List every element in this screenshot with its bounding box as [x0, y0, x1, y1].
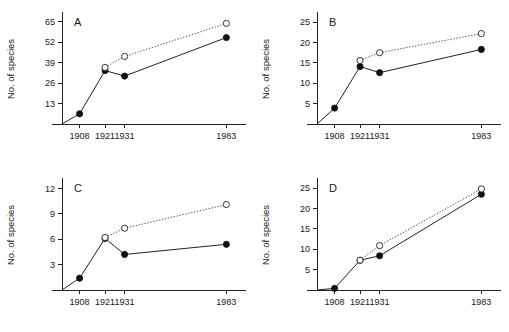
x-tick-label: 1983: [471, 297, 491, 307]
x-tick-label: 1908: [325, 131, 345, 141]
panel-a: 13263952651908192119311983No. of species…: [0, 0, 254, 166]
series-line-estimated: [105, 205, 226, 238]
x-tick-label: 1908: [325, 297, 345, 307]
panel-b: 5101520251908192119311983No. of speciesB: [255, 0, 509, 166]
data-point-open: [478, 30, 484, 36]
data-point-open: [357, 57, 363, 63]
data-point-open: [377, 242, 383, 248]
data-point-filled: [223, 34, 229, 40]
data-point-filled: [332, 105, 338, 111]
panel-d: 5101520251908192119311983No. of speciesD: [255, 166, 509, 332]
y-tick-label: 39: [45, 58, 55, 68]
panel-b-plot: 5101520251908192119311983No. of speciesB: [255, 0, 509, 166]
y-tick-label: 3: [50, 260, 55, 270]
panel-letter: B: [329, 16, 336, 28]
y-tick-label: 20: [300, 38, 310, 48]
x-tick-label: 1921: [95, 131, 115, 141]
y-axis-title: No. of species: [260, 39, 271, 99]
x-tick-label: 1931: [115, 297, 135, 307]
x-tick-label: 1983: [471, 131, 491, 141]
x-tick-label: 1921: [95, 297, 115, 307]
y-tick-label: 26: [45, 78, 55, 88]
y-tick-label: 9: [50, 209, 55, 219]
x-tick-label: 1983: [216, 131, 236, 141]
y-axis-title: No. of species: [260, 205, 271, 265]
y-tick-label: 5: [305, 265, 310, 275]
data-point-open: [223, 201, 229, 207]
y-axis-title: No. of species: [5, 205, 16, 265]
data-point-open: [122, 225, 128, 231]
y-tick-label: 10: [300, 244, 310, 254]
y-tick-label: 13: [45, 99, 55, 109]
data-point-open: [102, 64, 108, 70]
data-point-filled: [77, 275, 83, 281]
panel-letter: D: [329, 182, 337, 194]
y-tick-label: 10: [300, 78, 310, 88]
x-tick-label: 1931: [370, 297, 390, 307]
data-point-filled: [478, 46, 484, 52]
x-tick-label: 1908: [70, 297, 90, 307]
data-point-filled: [377, 253, 383, 259]
data-point-open: [478, 186, 484, 192]
series-line-observed: [80, 38, 227, 114]
y-tick-label: 20: [300, 204, 310, 214]
y-tick-label: 5: [305, 99, 310, 109]
data-point-filled: [122, 73, 128, 79]
panel-letter: C: [74, 182, 82, 194]
data-point-filled: [122, 251, 128, 257]
y-tick-label: 15: [300, 224, 310, 234]
y-tick-label: 12: [45, 184, 55, 194]
y-tick-label: 25: [300, 183, 310, 193]
data-point-open: [102, 234, 108, 240]
data-point-open: [122, 53, 128, 59]
x-tick-label: 1921: [350, 131, 370, 141]
panel-a-plot: 13263952651908192119311983No. of species…: [0, 0, 254, 166]
y-tick-label: 25: [300, 17, 310, 27]
data-point-filled: [377, 70, 383, 76]
y-tick-label: 6: [50, 234, 55, 244]
x-tick-label: 1983: [216, 297, 236, 307]
data-point-open: [377, 50, 383, 56]
panel-d-plot: 5101520251908192119311983No. of speciesD: [255, 166, 509, 332]
x-tick-label: 1931: [370, 131, 390, 141]
data-point-filled: [332, 285, 338, 291]
data-point-filled: [223, 241, 229, 247]
data-point-filled: [357, 63, 363, 69]
series-line-observed: [80, 238, 227, 278]
panel-c-plot: 369121908192119311983No. of speciesC: [0, 166, 254, 332]
y-tick-label: 15: [300, 58, 310, 68]
series-line-observed: [335, 49, 482, 108]
y-tick-label: 52: [45, 37, 55, 47]
x-tick-label: 1908: [70, 131, 90, 141]
data-point-open: [223, 20, 229, 26]
x-tick-label: 1921: [350, 297, 370, 307]
panel-c: 369121908192119311983No. of speciesC: [0, 166, 254, 332]
panel-letter: A: [74, 16, 82, 28]
data-point-filled: [77, 111, 83, 117]
y-tick-label: 65: [45, 17, 55, 27]
x-tick-label: 1931: [115, 131, 135, 141]
series-origin-segment: [317, 108, 335, 124]
series-line-estimated: [360, 34, 481, 61]
series-line-estimated: [360, 189, 481, 260]
y-axis-title: No. of species: [5, 39, 16, 99]
data-point-open: [357, 257, 363, 263]
figure-container: 13263952651908192119311983No. of species…: [0, 0, 509, 332]
series-line-observed: [335, 194, 482, 288]
